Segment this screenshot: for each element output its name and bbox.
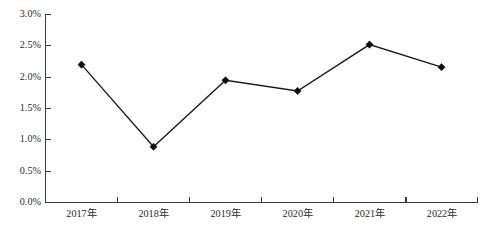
x-tick-label-2021: 2021年 xyxy=(355,207,385,219)
data-point-2020年 xyxy=(294,87,301,94)
y-tick-label-2.5: 2.5% xyxy=(20,39,42,50)
series-line xyxy=(82,45,442,147)
x-tick-label-2020: 2020年 xyxy=(283,207,313,219)
y-tick-label-1.5: 1.5% xyxy=(20,102,42,113)
x-tick-label-2022: 2022年 xyxy=(427,207,457,219)
y-tick-label-0.0: 0.0% xyxy=(20,196,42,207)
x-axis-labels: 2017年 2018年 2019年 2020年 2021年 2022年 xyxy=(66,207,457,219)
x-tick-label-2018: 2018年 xyxy=(138,207,168,219)
y-tick-label-1.0: 1.0% xyxy=(20,133,42,144)
x-axis-ticks xyxy=(118,197,478,203)
y-axis-labels: 3.0% 2.5% 2.0% 1.5% 1.0% 0.5% 0.0% xyxy=(20,8,42,207)
series-markers xyxy=(78,41,445,150)
x-tick-label-2019: 2019年 xyxy=(211,207,241,219)
data-point-2022年 xyxy=(438,64,445,71)
line-chart: 3.0% 2.5% 2.0% 1.5% 1.0% 0.5% 0.0% 2017年… xyxy=(0,0,496,241)
chart-canvas: 3.0% 2.5% 2.0% 1.5% 1.0% 0.5% 0.0% 2017年… xyxy=(0,0,496,241)
y-tick-label-2.0: 2.0% xyxy=(20,71,42,82)
y-tick-label-3.0: 3.0% xyxy=(20,8,42,19)
y-tick-label-0.5: 0.5% xyxy=(20,165,42,176)
x-tick-label-2017: 2017年 xyxy=(66,207,96,219)
y-axis-ticks xyxy=(46,15,52,203)
data-point-2021年 xyxy=(366,41,373,48)
